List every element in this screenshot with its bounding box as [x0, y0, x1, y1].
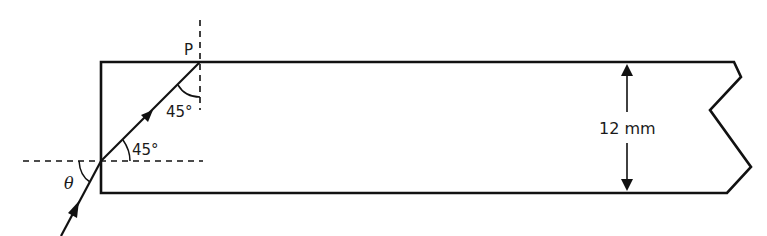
label-thickness: 12 mm [599, 119, 656, 138]
label-angle-p: 45° [166, 103, 193, 121]
incident-ray-arrow-icon [68, 201, 79, 218]
dimension-arrow-up-icon [621, 64, 633, 76]
label-angle-refracted: 45° [132, 141, 159, 159]
dimension-arrow-down-icon [621, 179, 633, 191]
angle-arc-p [178, 85, 200, 97]
refraction-diagram: P 45° 45° θ 12 mm [0, 0, 767, 236]
angle-arc-refracted [123, 140, 130, 161]
label-angle-theta: θ [64, 174, 74, 193]
label-point-p: P [184, 41, 193, 59]
angle-arc-theta [79, 161, 90, 182]
